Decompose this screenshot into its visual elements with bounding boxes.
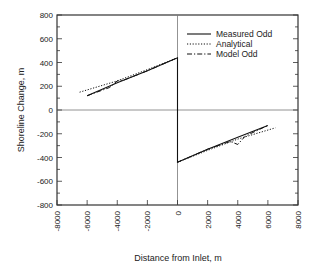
y-tick-label: 400 [40, 59, 54, 68]
y-tick-label: 0 [49, 106, 54, 115]
x-tick-label: -6000 [83, 210, 92, 231]
y-axis-label: Shoreline Change, m [16, 68, 26, 153]
y-tick-label: 800 [40, 11, 54, 20]
plot-axes: 8006004002000-200-400-600-800-8000-6000-… [37, 11, 303, 231]
x-axis-label: Distance from Inlet, m [134, 253, 222, 263]
legend: Measured OddAnalyticalModel Odd [187, 29, 272, 59]
x-tick-label: -8000 [53, 210, 62, 231]
x-tick-label: 8000 [294, 210, 303, 228]
y-tick-label: 600 [40, 35, 54, 44]
legend-label: Model Odd [216, 49, 258, 59]
series-analytical [80, 58, 178, 92]
y-tick-label: 200 [40, 82, 54, 91]
x-tick-label: 4000 [234, 210, 243, 228]
x-tick-label: -2000 [143, 210, 152, 231]
chart-svg: 8006004002000-200-400-600-800-8000-6000-… [0, 0, 318, 269]
x-tick-label: 0 [174, 210, 183, 215]
x-tick-label: 6000 [264, 210, 273, 228]
y-tick-label: -600 [37, 177, 54, 186]
x-tick-label: -4000 [113, 210, 122, 231]
series-analytical [178, 128, 276, 162]
legend-label: Analytical [216, 39, 252, 49]
x-tick-label: 2000 [204, 210, 213, 228]
legend-label: Measured Odd [216, 29, 272, 39]
chart-container: 8006004002000-200-400-600-800-8000-6000-… [0, 0, 318, 269]
y-tick-label: -800 [37, 201, 54, 210]
y-tick-label: -200 [37, 130, 54, 139]
y-tick-label: -400 [37, 154, 54, 163]
